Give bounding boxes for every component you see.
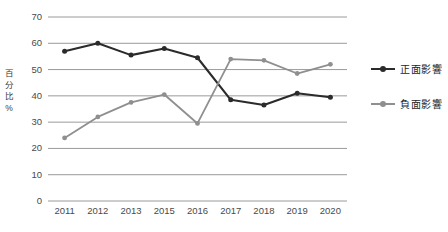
data-point-marker	[195, 55, 200, 60]
data-point-marker	[295, 71, 300, 76]
data-point-marker	[62, 136, 67, 141]
data-point-marker	[328, 62, 333, 67]
series-line	[65, 59, 331, 138]
data-point-marker	[261, 103, 266, 108]
data-point-marker	[228, 57, 233, 62]
data-point-marker	[95, 41, 100, 46]
data-point-marker	[95, 114, 100, 119]
data-point-marker	[162, 46, 167, 51]
legend: 正面影響 負面影響	[371, 60, 447, 130]
legend-label-positive: 正面影響	[400, 61, 442, 76]
data-point-marker	[162, 92, 167, 97]
data-series-layer	[62, 41, 333, 141]
data-point-marker	[328, 95, 333, 100]
legend-item-positive[interactable]: 正面影響	[371, 60, 447, 77]
data-point-marker	[129, 53, 134, 58]
legend-label-negative: 負面影響	[400, 96, 442, 111]
data-point-marker	[62, 49, 67, 54]
data-point-marker	[228, 97, 233, 102]
data-point-marker	[295, 91, 300, 96]
legend-item-negative[interactable]: 負面影響	[371, 95, 447, 112]
line-chart: 百 分 比 % 010203040506070 2011201220132015…	[0, 0, 448, 232]
data-point-marker	[195, 121, 200, 126]
legend-marker-negative-icon	[371, 99, 395, 109]
data-point-marker	[129, 100, 134, 105]
data-point-marker	[262, 58, 267, 63]
legend-marker-positive-icon	[371, 64, 395, 74]
